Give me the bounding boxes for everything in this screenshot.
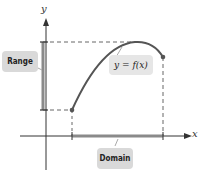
y-axis-label: y <box>41 3 47 14</box>
domain-bar <box>72 135 163 138</box>
x-axis-label: x <box>192 128 198 139</box>
function-curve <box>72 42 163 110</box>
function-label: y = f(x) <box>109 55 153 75</box>
range-callout: Range <box>2 51 38 72</box>
range-bar <box>42 42 45 110</box>
x-axis-arrow-icon <box>184 133 192 139</box>
domain-callout: Domain <box>97 148 133 169</box>
curve-end-point <box>161 55 166 60</box>
y-axis-arrow-icon <box>43 18 49 26</box>
curve-start-point <box>70 108 75 113</box>
